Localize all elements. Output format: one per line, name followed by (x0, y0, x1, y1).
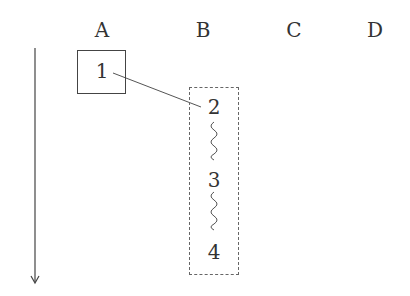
node-4: 4 (199, 240, 229, 264)
node-2: 2 (199, 95, 229, 119)
column-c-label: C (279, 18, 309, 42)
connector-line (113, 73, 201, 107)
column-a-label: A (87, 18, 117, 42)
column-d-label: D (360, 18, 390, 42)
node-3: 3 (199, 168, 229, 192)
node-1: 1 (87, 59, 117, 83)
column-b-label: B (188, 18, 218, 42)
